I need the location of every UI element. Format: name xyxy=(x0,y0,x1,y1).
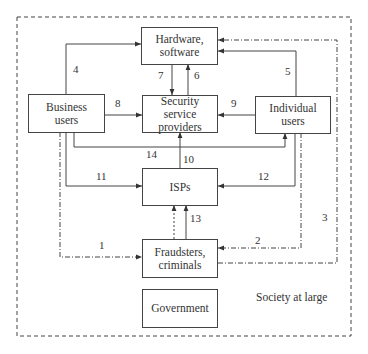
edge-label-9: 9 xyxy=(231,98,237,109)
edge-label-14: 14 xyxy=(146,149,157,160)
edge-label-12: 12 xyxy=(258,171,269,182)
node-government: Government xyxy=(142,289,218,328)
edge-label-1: 1 xyxy=(99,240,105,251)
edge-label-2: 2 xyxy=(255,235,261,246)
node-individual-users: Individual users xyxy=(255,96,331,134)
edge-3-arrow xyxy=(218,40,337,263)
edge-12-arrow xyxy=(218,133,295,186)
edge-label-5: 5 xyxy=(285,66,291,77)
edge-label-11: 11 xyxy=(96,171,107,182)
edge-2-arrow xyxy=(218,133,301,248)
edge-label-4: 4 xyxy=(73,64,79,75)
edge-label-13: 13 xyxy=(190,213,201,224)
society-at-large-label: Society at large xyxy=(256,291,327,303)
node-hardware-software: Hardware, software xyxy=(141,27,218,65)
edge-label-8: 8 xyxy=(115,98,121,109)
node-business-users: Business users xyxy=(28,94,105,133)
edge-label-6: 6 xyxy=(194,70,200,81)
edge-label-3: 3 xyxy=(322,212,328,223)
node-security-service-providers: Security service providers xyxy=(142,95,218,133)
node-fraudsters-criminals: Fraudsters, criminals xyxy=(142,239,218,278)
edge-label-10: 10 xyxy=(183,154,194,165)
node-isps: ISPs xyxy=(142,168,218,206)
edge-label-7: 7 xyxy=(158,70,164,81)
